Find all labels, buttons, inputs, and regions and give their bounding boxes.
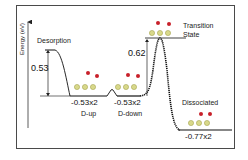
transition-state-label-line2: State: [183, 31, 199, 38]
dissociated-energy: -0.77x2: [185, 133, 212, 141]
desorption-label: Desorption: [37, 37, 71, 44]
y-axis-label: Energy (eV): [19, 23, 25, 55]
d-down-label: D-down: [118, 110, 142, 117]
dissociated-label: Dissociated: [182, 99, 218, 106]
dissociation-path: [140, 38, 180, 130]
dissociation-barrier-value: 0.62: [128, 49, 146, 58]
d-down-configuration: [115, 73, 140, 90]
desorption-curve: [45, 50, 70, 96]
desorption-barrier-value: 0.53: [31, 64, 49, 73]
transition-state-label-line1: Transition: [183, 22, 213, 29]
d-up-energy: -0.53x2: [71, 99, 98, 107]
d-up-label: D-up: [81, 110, 96, 117]
adsorbed-baseline: [70, 90, 140, 97]
dissociated-configuration: [188, 112, 212, 126]
transition-state-configuration: [149, 21, 171, 36]
d-up-configuration: [74, 71, 99, 90]
d-down-energy: -0.53x2: [114, 99, 141, 107]
